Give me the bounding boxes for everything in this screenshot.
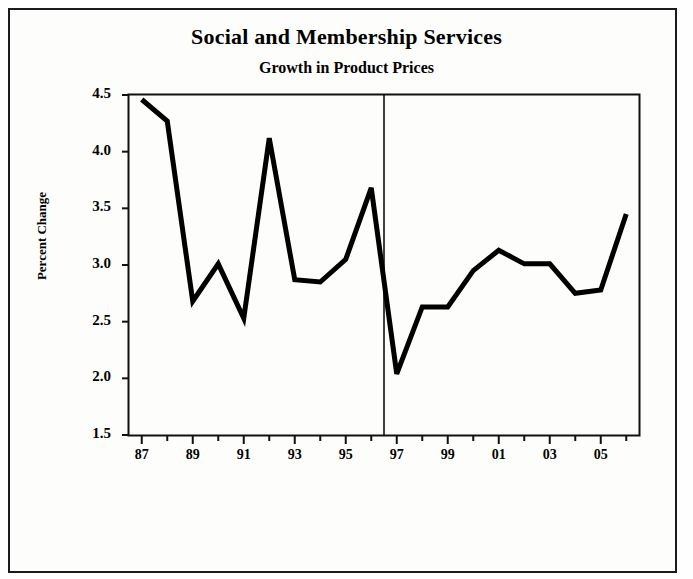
- x-tick-label: 95: [329, 447, 363, 463]
- x-tick-label: 05: [584, 447, 618, 463]
- y-tick-label: 4.5: [69, 85, 111, 102]
- y-tick-label: 1.5: [69, 425, 111, 442]
- y-tick-label: 3.5: [69, 198, 111, 215]
- x-tick-label: 93: [278, 447, 312, 463]
- y-tick-label: 4.0: [69, 142, 111, 159]
- y-tick-label: 2.5: [69, 312, 111, 329]
- y-tick-label: 3.0: [69, 255, 111, 272]
- x-tick-label: 97: [380, 447, 414, 463]
- x-tick-label: 03: [533, 447, 567, 463]
- y-tick-label: 2.0: [69, 368, 111, 385]
- x-tick-label: 87: [125, 447, 159, 463]
- chart-figure: Social and Membership Services Growth in…: [0, 0, 693, 579]
- x-tick-label: 99: [431, 447, 465, 463]
- x-tick-label: 89: [176, 447, 210, 463]
- x-tick-label: 01: [482, 447, 516, 463]
- x-tick-label: 91: [227, 447, 261, 463]
